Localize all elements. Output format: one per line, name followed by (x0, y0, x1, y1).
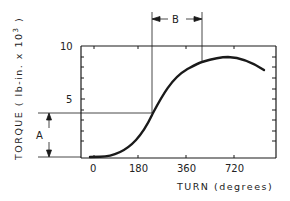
y-tick-label-10: 10 (60, 41, 73, 52)
arrow-up-icon (47, 113, 52, 120)
dimension-a-label: A (36, 130, 43, 141)
svg-text:TORQUE ( lb-in. x 103 ): TORQUE ( lb-in. x 103 ) (12, 17, 24, 161)
y-tick-label-5: 5 (66, 94, 72, 105)
y-axis-title: TORQUE ( lb-in. x 103 ) (12, 17, 24, 161)
x-axis-title: TURN (degrees) (176, 181, 273, 192)
x-tick-label-0: 0 (90, 163, 96, 174)
dimension-b-label: B (172, 14, 179, 25)
plot-frame (81, 46, 276, 158)
dimension-a (38, 113, 152, 157)
arrow-left-icon (152, 17, 160, 22)
dimension-b (152, 12, 202, 113)
torque-turn-chart: 10 5 0 180 360 720 TURN (degrees) TORQUE… (0, 0, 290, 201)
x-tick-label-720: 720 (225, 163, 244, 174)
arrow-right-icon (194, 17, 202, 22)
arrow-down-icon (47, 150, 52, 157)
y-axis-title-main: TORQUE ( lb-in. x 10 (13, 32, 24, 161)
x-tick-label-360: 360 (177, 163, 196, 174)
y-axis-title-close: ) (13, 17, 24, 27)
x-tick-label-180: 180 (129, 163, 148, 174)
torque-curve (90, 57, 264, 157)
